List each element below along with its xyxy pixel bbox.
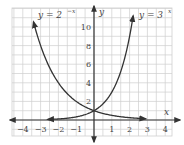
x-tick-label: 2	[127, 125, 132, 134]
exponential-functions-chart: −4−3−2−11234246810xyy = 2−xy = 3x	[0, 0, 184, 145]
curve-label-2-neg-x: y = 2	[37, 10, 62, 20]
axes	[10, 6, 180, 142]
x-tick-label: −2	[53, 125, 65, 134]
grid	[12, 8, 172, 136]
x-tick-label: −4	[17, 125, 29, 134]
y-tick-label: 8	[86, 42, 91, 51]
x-axis-label: x	[164, 107, 169, 117]
y-tick-label: 10	[81, 23, 91, 32]
curve-label-exponent: −x	[67, 7, 76, 14]
x-tick-label: −1	[70, 125, 82, 134]
y-tick-label: 2	[86, 97, 91, 106]
x-tick-label: 3	[145, 125, 150, 134]
y-tick-label: 6	[86, 60, 91, 69]
x-tick-label: 1	[109, 125, 114, 134]
x-tick-label: 4	[163, 125, 168, 134]
x-tick-label: −3	[35, 125, 47, 134]
y-axis-label: y	[98, 7, 105, 17]
y-tick-label: 4	[86, 79, 91, 88]
curve-label-3-x: y = 3	[138, 10, 163, 20]
